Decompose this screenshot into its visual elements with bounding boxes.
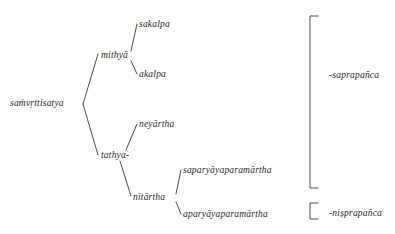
tree-diagram: saṁvṛttisatya mithyā sakalpa akalpa tath… bbox=[0, 0, 395, 234]
edge-tathya-to-neyartha bbox=[126, 124, 137, 150]
node-nitartha: nītārtha bbox=[133, 193, 165, 203]
edge-mithya-to-sakalpa bbox=[131, 24, 137, 51]
node-neyartha: neyārtha bbox=[139, 120, 174, 130]
bracket-label-saprapanca: -saprapañca bbox=[329, 71, 379, 81]
node-samvrttisatya: saṁvṛttisatya bbox=[10, 99, 64, 109]
tree-connector-lines bbox=[0, 0, 395, 234]
node-saparyayaparamartha: saparyāyaparamārtha bbox=[183, 166, 272, 176]
node-sakalpa: sakalpa bbox=[139, 20, 170, 30]
edge-root-to-mithya bbox=[83, 54, 98, 104]
node-mithya: mithyā bbox=[101, 51, 128, 61]
bracket-label-nisprapanca: -niṣprapañca bbox=[329, 209, 382, 219]
saprapanca-bracket-shape bbox=[310, 16, 318, 188]
edge-nitartha-to-saparyaya bbox=[176, 170, 181, 194]
edge-mithya-to-akalpa bbox=[131, 61, 137, 74]
node-aparyayaparamartha: aparyāyaparamārtha bbox=[183, 210, 268, 220]
edge-tathya-to-nitartha bbox=[120, 161, 131, 196]
edge-nitartha-to-aparyaya bbox=[176, 202, 181, 214]
edge-root-to-tathya bbox=[83, 104, 98, 155]
node-akalpa: akalpa bbox=[139, 70, 166, 80]
node-tathya: tathya- bbox=[101, 151, 129, 161]
nisprapanca-bracket-shape bbox=[310, 203, 318, 219]
